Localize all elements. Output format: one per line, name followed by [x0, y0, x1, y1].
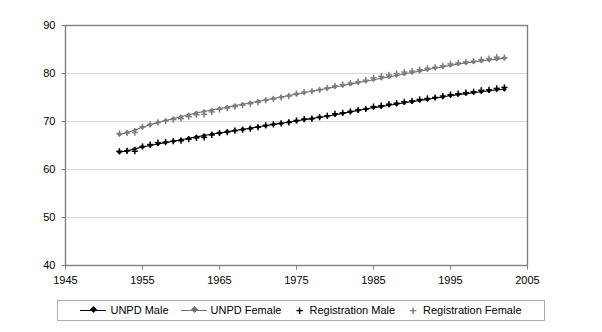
x-tick-2005: 2005	[508, 274, 548, 286]
line-diamond-marker-icon	[80, 305, 106, 316]
x-tick-1965: 1965	[200, 274, 240, 286]
legend-item-unpd-female[interactable]: UNPD Female	[181, 305, 282, 316]
series-layer	[116, 54, 507, 154]
line-diamond-marker-icon	[181, 305, 207, 316]
y-tick-50: 50	[28, 211, 56, 223]
legend-item-label: UNPD Male	[110, 305, 168, 316]
x-tick-1975: 1975	[277, 274, 317, 286]
y-tick-60: 60	[28, 163, 56, 175]
plus-marker-icon: +	[293, 305, 305, 316]
x-tick-1955: 1955	[123, 274, 163, 286]
y-tick-70: 70	[28, 115, 56, 127]
y-tick-90: 90	[28, 19, 56, 31]
legend-item-label: Registration Male	[309, 305, 395, 316]
legend-item-registration-male[interactable]: +Registration Male	[293, 305, 395, 316]
x-tick-1995: 1995	[431, 274, 471, 286]
y-tick-40: 40	[28, 259, 56, 271]
x-tick-1985: 1985	[354, 274, 394, 286]
legend-item-label: UNPD Female	[211, 305, 282, 316]
legend-item-unpd-male[interactable]: UNPD Male	[80, 305, 168, 316]
plus-marker-icon: +	[407, 305, 419, 316]
y-tick-80: 80	[28, 67, 56, 79]
legend-item-registration-female[interactable]: +Registration Female	[407, 305, 521, 316]
x-tick-1945: 1945	[46, 274, 86, 286]
legend-item-label: Registration Female	[423, 305, 521, 316]
life-expectancy-line-chart: 908070605040 194519551965197519851995200…	[0, 0, 602, 332]
chart-legend: UNPD MaleUNPD Female+Registration Male+R…	[57, 300, 545, 321]
